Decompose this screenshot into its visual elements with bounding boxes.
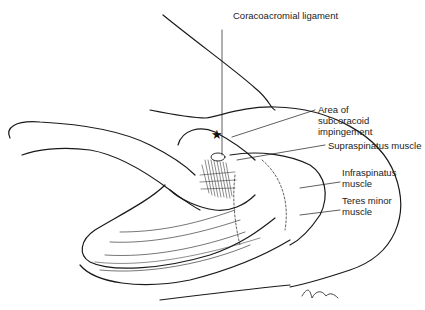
anatomical-diagram: Coracoacromial ligament Area of subcorac… <box>0 0 425 310</box>
coracoid-tip <box>211 153 225 161</box>
leader-infraspinatus <box>300 182 340 188</box>
ligament-hatching <box>200 160 236 198</box>
muscle-fiber <box>110 220 240 242</box>
muscle-fiber <box>120 210 235 232</box>
label-subcoracoid-impingement: Area of subcoracoid impingement <box>318 104 372 137</box>
label-coracoacromial-ligament: Coracoacromial ligament <box>233 10 338 21</box>
clavicle-upper <box>9 122 195 175</box>
label-infraspinatus-muscle: Infraspinatus muscle <box>342 167 396 189</box>
lower-contour-line <box>160 285 290 300</box>
star-marker-icon: ★ <box>211 129 223 140</box>
rotator-cuff-outline <box>230 153 325 245</box>
label-supraspinatus-muscle: Supraspinatus muscle <box>328 140 421 151</box>
illustration-drawing <box>0 0 425 310</box>
subscapularis-outline-upper <box>82 185 275 268</box>
cuff-dashed-line <box>262 160 286 230</box>
muscle-fiber <box>105 232 245 256</box>
coracoid-lower <box>170 190 255 210</box>
leader-impingement <box>232 110 315 137</box>
signature-stroke <box>302 290 338 298</box>
label-teres-minor-muscle: Teres minor muscle <box>342 195 392 217</box>
upper-contour-line <box>163 15 275 110</box>
subscapularis-outline-lower <box>80 240 290 285</box>
muscle-fiber <box>100 245 250 271</box>
